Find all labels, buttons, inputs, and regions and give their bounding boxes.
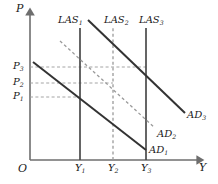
origin-label: O <box>18 163 27 174</box>
price-label-p3: P3 <box>13 61 24 71</box>
las3-label: LAS3 <box>139 15 164 25</box>
ad3-label: AD3 <box>187 110 206 120</box>
ad3-curve <box>88 20 185 113</box>
ad1-curve <box>33 62 146 150</box>
price-label-p2: P2 <box>13 77 24 87</box>
output-label-y2: Y2 <box>108 163 119 173</box>
price-label-p1: P1 <box>13 91 24 101</box>
output-label-y1: Y1 <box>75 163 86 173</box>
ad2-curve <box>60 41 155 128</box>
p-axis-label: P <box>16 3 23 14</box>
las1-label: LAS1 <box>58 15 83 25</box>
figure-canvas: P Y O P3 P2 P1 Y1 Y2 Y3 LAS1 LAS2 LAS3 A… <box>0 0 218 184</box>
diagram-svg <box>0 0 218 184</box>
las2-label: LAS2 <box>104 15 129 25</box>
y-axis-label: Y <box>199 162 206 173</box>
ad1-label: AD1 <box>149 145 168 155</box>
output-label-y3: Y3 <box>141 163 152 173</box>
ad2-label: AD2 <box>157 129 176 139</box>
